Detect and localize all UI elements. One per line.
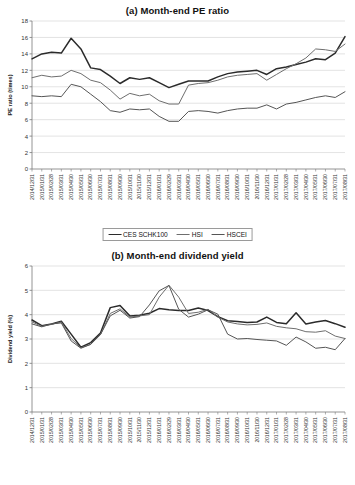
x-tick-label: 2015/04/30 xyxy=(68,174,74,200)
x-tick-label: 2014/12/31 xyxy=(29,417,35,443)
x-tick-label: 2017/03/31 xyxy=(293,417,299,443)
x-tick-label: 2016/01/31 xyxy=(156,417,162,443)
x-tick-label: 2015/02/28 xyxy=(48,417,54,443)
x-tick-label: 2016/06/30 xyxy=(205,417,211,443)
x-tick-label: 2015/01/31 xyxy=(39,174,45,200)
legend-item-ces-schk100: CES SCHK100 xyxy=(108,230,168,239)
x-tick-label: 2016/11/30 xyxy=(254,174,260,200)
chart-title-a: (a) Month-end PE ratio xyxy=(0,0,355,17)
legend-pe-ratio: CES SCHK100HSIHSCEI xyxy=(102,228,253,241)
x-tick-label: 2015/03/31 xyxy=(58,417,64,443)
y-axis-title: Dividend yield (%) xyxy=(7,315,13,363)
x-tick-label: 2015/09/30 xyxy=(117,417,123,443)
x-tick-label: 2017/04/30 xyxy=(303,417,309,443)
x-tick-label: 2016/01/31 xyxy=(156,174,162,200)
x-tick-label: 2015/02/28 xyxy=(48,174,54,200)
x-tick-label: 2016/02/29 xyxy=(166,417,172,443)
x-tick-label: 2016/04/30 xyxy=(185,417,191,443)
legend-label: CES SCHK100 xyxy=(123,230,168,239)
series-line-hscei xyxy=(32,285,345,349)
y-tick-label: 14 xyxy=(21,51,28,57)
x-tick-label: 2015/06/30 xyxy=(87,174,93,200)
chart-svg-pe-ratio: 024681012141618PE ratio (times)2014/12/3… xyxy=(0,17,355,232)
plot-area-a: 024681012141618PE ratio (times)2014/12/3… xyxy=(0,17,355,232)
x-tick-label: 2016/08/31 xyxy=(224,417,230,443)
x-tick-label: 2017/07/31 xyxy=(332,174,338,200)
y-tick-label: 4 xyxy=(25,134,29,140)
x-tick-label: 2017/04/30 xyxy=(303,174,309,200)
y-tick-label: 6 xyxy=(25,117,29,123)
x-tick-label: 2015/04/30 xyxy=(68,417,74,443)
x-tick-label: 2016/12/31 xyxy=(264,174,270,200)
x-tick-label: 2015/05/31 xyxy=(78,174,84,200)
y-tick-label: 4 xyxy=(25,312,29,318)
x-tick-label: 2015/09/30 xyxy=(117,174,123,200)
y-tick-label: 2 xyxy=(25,150,29,156)
x-tick-label: 2015/07/31 xyxy=(97,417,103,443)
x-tick-label: 2016/12/31 xyxy=(264,417,270,443)
x-tick-label: 2017/02/28 xyxy=(283,174,289,200)
x-tick-label: 2016/02/29 xyxy=(166,174,172,200)
x-tick-label: 2015/11/30 xyxy=(136,174,142,200)
x-tick-label: 2016/03/31 xyxy=(176,174,182,200)
chart-title-b: (b) Month-end dividend yield xyxy=(0,245,355,262)
x-tick-label: 2016/10/31 xyxy=(244,417,250,443)
x-tick-label: 2017/07/31 xyxy=(332,417,338,443)
y-tick-label: 0 xyxy=(25,409,29,415)
x-tick-label: 2016/09/30 xyxy=(234,417,240,443)
x-tick-label: 2016/07/31 xyxy=(215,174,221,200)
figure-dividend-yield: (b) Month-end dividend yield 0123456Divi… xyxy=(0,245,355,485)
y-tick-label: 3 xyxy=(25,336,29,342)
x-tick-label: 2015/01/31 xyxy=(39,417,45,443)
y-tick-label: 16 xyxy=(21,35,28,41)
x-tick-label: 2017/06/30 xyxy=(322,417,328,443)
y-tick-label: 0 xyxy=(25,166,29,172)
x-tick-label: 2016/09/30 xyxy=(234,174,240,200)
y-tick-label: 1 xyxy=(25,385,29,391)
series-line-hscei xyxy=(32,84,345,121)
x-tick-label: 2016/05/31 xyxy=(195,417,201,443)
y-tick-label: 10 xyxy=(21,84,28,90)
y-tick-label: 5 xyxy=(25,288,29,294)
x-tick-label: 2015/08/31 xyxy=(107,174,113,200)
x-tick-label: 2015/10/31 xyxy=(127,417,133,443)
x-tick-label: 2017/06/30 xyxy=(322,174,328,200)
x-tick-label: 2015/10/31 xyxy=(127,174,133,200)
y-tick-label: 12 xyxy=(21,68,28,74)
x-tick-label: 2015/03/31 xyxy=(58,174,64,200)
x-tick-label: 2016/06/30 xyxy=(205,174,211,200)
x-tick-label: 2016/03/31 xyxy=(176,417,182,443)
y-axis-title: PE ratio (times) xyxy=(7,74,13,115)
x-tick-label: 2017/01/31 xyxy=(273,417,279,443)
legend-line-icon xyxy=(212,234,225,235)
x-tick-label: 2016/10/31 xyxy=(244,174,250,200)
x-tick-label: 2017/01/31 xyxy=(273,174,279,200)
x-tick-label: 2015/06/30 xyxy=(87,417,93,443)
series-line-ces-schk100 xyxy=(32,305,345,347)
y-tick-label: 6 xyxy=(25,263,29,269)
x-tick-label: 2017/05/31 xyxy=(312,417,318,443)
chart-svg-dividend-yield: 0123456Dividend yield (%)2014/12/312015/… xyxy=(0,262,355,474)
x-tick-label: 2017/05/31 xyxy=(312,174,318,200)
x-tick-label: 2017/08/31 xyxy=(342,417,348,443)
x-tick-label: 2015/05/31 xyxy=(78,417,84,443)
x-tick-label: 2017/02/28 xyxy=(283,417,289,443)
x-tick-label: 2016/11/30 xyxy=(254,417,260,443)
x-tick-label: 2015/11/30 xyxy=(136,417,142,443)
legend-line-icon xyxy=(177,234,190,235)
legend-item-hscei: HSCEI xyxy=(212,230,247,239)
x-tick-label: 2015/12/31 xyxy=(146,174,152,200)
x-tick-label: 2015/08/31 xyxy=(107,417,113,443)
x-tick-label: 2016/05/31 xyxy=(195,174,201,200)
x-tick-label: 2015/07/31 xyxy=(97,174,103,200)
figure-pe-ratio: (a) Month-end PE ratio 024681012141618PE… xyxy=(0,0,355,245)
y-tick-label: 2 xyxy=(25,361,29,367)
x-tick-label: 2016/08/31 xyxy=(224,174,230,200)
legend-label: HSI xyxy=(192,230,203,239)
x-tick-label: 2014/12/31 xyxy=(29,174,35,200)
x-tick-label: 2016/07/31 xyxy=(215,417,221,443)
y-tick-label: 8 xyxy=(25,101,29,107)
legend-line-icon xyxy=(108,234,121,235)
y-tick-label: 18 xyxy=(21,18,28,24)
x-tick-label: 2015/12/31 xyxy=(146,417,152,443)
